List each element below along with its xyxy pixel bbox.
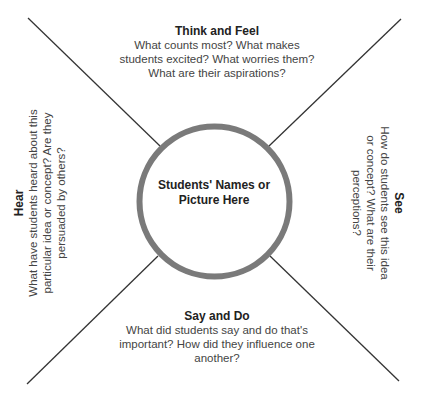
quadrant-say-and-do: Say and Do What did students say and do … xyxy=(112,309,322,365)
quadrant-hear: Hear What have students heard about this… xyxy=(12,93,68,313)
quadrant-title: See xyxy=(392,123,406,283)
quadrant-title: Say and Do xyxy=(112,309,322,323)
quadrant-think-and-feel: Think and Feel What counts most? What ma… xyxy=(112,24,322,80)
quadrant-body: What counts most? What makes students ex… xyxy=(112,38,322,80)
quadrant-see: See How do students see this idea or con… xyxy=(350,123,406,283)
quadrant-body: How do students see this idea or concept… xyxy=(350,123,392,283)
quadrant-title: Think and Feel xyxy=(112,24,322,38)
quadrant-title: Hear xyxy=(12,93,26,313)
center-label: Students' Names or Picture Here xyxy=(154,178,274,208)
quadrant-body: What did students say and do that's impo… xyxy=(112,323,322,365)
quadrant-body: What have students heard about this part… xyxy=(26,93,68,313)
